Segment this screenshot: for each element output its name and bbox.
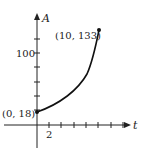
x-tick-label-2: 2 bbox=[46, 129, 52, 140]
exponential-growth-chart: t A 2 100 (0, 18) (10, 133) bbox=[0, 0, 141, 153]
growth-curve bbox=[37, 30, 99, 112]
y-axis-arrow-icon bbox=[34, 13, 40, 20]
start-point-label: (0, 18) bbox=[2, 108, 35, 119]
end-point-label: (10, 133) bbox=[55, 30, 101, 41]
y-tick-label-100: 100 bbox=[16, 48, 35, 59]
start-point-marker bbox=[35, 110, 39, 114]
x-axis-label: t bbox=[133, 119, 138, 132]
y-axis-label: A bbox=[41, 12, 50, 25]
x-axis-arrow-icon bbox=[124, 122, 131, 128]
